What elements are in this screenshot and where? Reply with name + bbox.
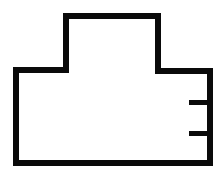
outline-shape: [16, 16, 210, 163]
diagram-canvas: [0, 0, 223, 178]
stepped-outline-diagram: [0, 0, 223, 178]
